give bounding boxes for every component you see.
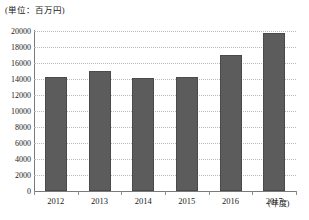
y-axis-tick-label: 20000	[1, 27, 31, 36]
x-axis-tick	[165, 191, 166, 195]
x-axis-tick	[34, 191, 35, 195]
gridline	[34, 63, 296, 64]
x-axis-tick-label: 2013	[91, 196, 108, 206]
x-axis-tick	[78, 191, 79, 195]
y-axis-tick-label: 16000	[1, 59, 31, 68]
x-axis-tick-label: 2015	[178, 196, 195, 206]
x-axis-ticks	[34, 191, 296, 195]
gridline	[34, 47, 296, 48]
y-axis-tick-labels: 2000018000160001400012000100008000600040…	[0, 31, 31, 191]
x-axis-tick-label: 2016	[222, 196, 239, 206]
bar	[263, 33, 285, 191]
plot-area	[34, 31, 296, 191]
gridline	[34, 127, 296, 128]
x-axis-tick	[296, 191, 297, 195]
gridline	[34, 79, 296, 80]
x-axis-tick	[252, 191, 253, 195]
bar	[176, 77, 198, 191]
gridline	[34, 159, 296, 160]
y-axis-tick-label: 2000	[1, 171, 31, 180]
bar	[45, 77, 67, 191]
y-axis-tick-label: 18000	[1, 43, 31, 52]
x-axis-tick-label: 2012	[47, 196, 64, 206]
unit-caption: (単位：百万円)	[5, 3, 65, 15]
y-axis-tick-label: 6000	[1, 139, 31, 148]
y-axis-tick-label: 14000	[1, 75, 31, 84]
gridline	[34, 143, 296, 144]
bar	[132, 78, 154, 191]
gridline	[34, 175, 296, 176]
x-axis-tick-label: 2014	[135, 196, 152, 206]
x-axis-tick	[121, 191, 122, 195]
gridline	[34, 95, 296, 96]
gridline	[34, 31, 296, 32]
x-axis-tick	[209, 191, 210, 195]
y-axis-tick-label: 8000	[1, 123, 31, 132]
gridline	[34, 111, 296, 112]
y-axis-tick-label: 4000	[1, 155, 31, 164]
bar	[89, 71, 111, 191]
bar	[220, 55, 242, 191]
y-axis-tick-label: 0	[1, 187, 31, 196]
y-axis-tick-label: 12000	[1, 91, 31, 100]
y-axis-tick-label: 10000	[1, 107, 31, 116]
x-axis-title: (年度)	[268, 197, 289, 208]
chart-figure: (単位：百万円) 2000018000160001400012000100008…	[0, 0, 309, 220]
